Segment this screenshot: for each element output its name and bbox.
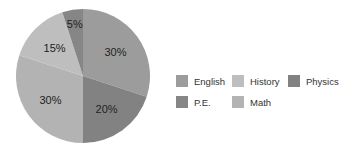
legend-label: Math bbox=[250, 97, 271, 108]
slice-label: 15% bbox=[44, 42, 66, 54]
slice-label: 5% bbox=[67, 18, 83, 30]
slice-label: 20% bbox=[96, 103, 118, 115]
legend-item-math: Math bbox=[232, 96, 271, 108]
legend-item-history: History bbox=[232, 75, 280, 87]
pie-chart: 30%20%30%15%5% bbox=[15, 8, 151, 144]
legend-swatch bbox=[176, 96, 188, 108]
slice-label: 30% bbox=[105, 46, 127, 58]
legend-label: Physics bbox=[306, 76, 339, 87]
legend-item-pe: P.E. bbox=[176, 96, 211, 108]
legend-swatch bbox=[176, 75, 188, 87]
legend-swatch bbox=[232, 75, 244, 87]
legend-label: English bbox=[194, 76, 225, 87]
legend-swatch bbox=[232, 96, 244, 108]
legend-item-physics: Physics bbox=[288, 75, 339, 87]
legend-swatch bbox=[288, 75, 300, 87]
legend-item-english: English bbox=[176, 75, 225, 87]
legend-label: P.E. bbox=[194, 97, 211, 108]
slice-label: 30% bbox=[39, 94, 61, 106]
legend-label: History bbox=[250, 76, 280, 87]
